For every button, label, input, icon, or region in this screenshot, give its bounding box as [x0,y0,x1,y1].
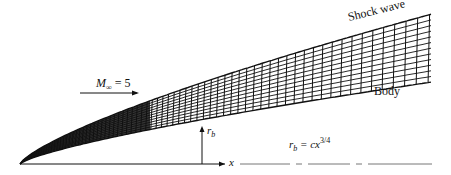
rb-subscript: b [211,130,215,139]
characteristics-mesh [20,14,432,164]
mach-symbol: M [96,76,106,90]
x-axis-arrow-icon [219,162,225,167]
body-equation: rb = cx3/4 [289,136,330,153]
rb-arrow-icon [200,126,205,132]
body-label: Body [374,84,400,99]
x-axis-label: x [229,156,234,168]
freestream-arrowhead-icon [132,91,139,96]
eq-rhs: = cx [297,138,320,150]
rb-label: rb [207,124,215,139]
mach-value: = 5 [112,76,131,90]
freestream-mach-label: M∞ = 5 [96,76,130,92]
eq-exponent: 3/4 [320,136,330,145]
